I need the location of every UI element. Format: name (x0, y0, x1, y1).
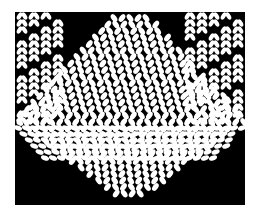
knitting-illustration (0, 0, 261, 220)
